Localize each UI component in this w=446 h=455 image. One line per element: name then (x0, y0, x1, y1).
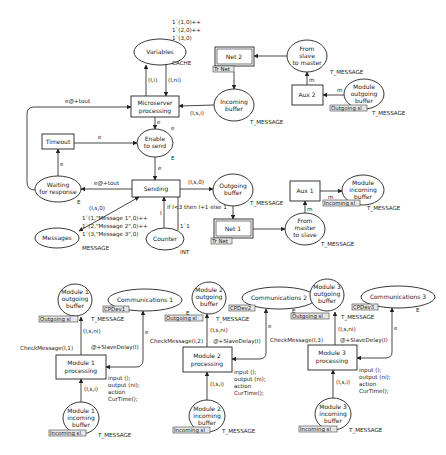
transition-label: Aux 1 (296, 187, 313, 194)
transition-label: Microserver (137, 99, 173, 106)
arc-label: 1`1 (180, 223, 190, 229)
colorset-label: E (77, 199, 81, 205)
place-outgoing-buffer[interactable]: Outgoing buffer (213, 174, 253, 206)
transition-label: Module 3 (318, 349, 346, 356)
place-label: buffer (225, 105, 243, 112)
colorset-label: MESSAGE (82, 245, 110, 251)
place-label: to send (144, 142, 167, 149)
arc-label: e (157, 119, 161, 125)
arc-label: e (268, 323, 272, 329)
transition-label: processing (65, 367, 98, 375)
place-label: Module 1 (61, 288, 89, 295)
place-label: Module 3 (313, 283, 341, 290)
place-module-2-outgoing-buffer[interactable]: Module 2 outgoing buffer (192, 282, 226, 314)
transition-microserver-processing[interactable]: Microserver processing (131, 96, 179, 117)
place-label: to master (292, 59, 322, 66)
colorset-label: T_MESSAGE (329, 69, 364, 76)
arc-label: (I,s,ni) (338, 326, 356, 332)
arc-label: e (394, 325, 398, 331)
subst-tag: Tr Net (213, 66, 234, 72)
code-line: input (); (359, 367, 382, 374)
arc (179, 105, 214, 106)
initial-marking: 1`(2,0)++ (172, 27, 201, 33)
arc-label: (I,s,ni) (83, 328, 101, 334)
place-incoming-buffer[interactable]: Incoming buffer (214, 89, 254, 121)
code-line: action (108, 389, 126, 395)
place-module-3-outgoing-buffer[interactable]: Module 3 outgoing buffer (310, 279, 344, 311)
initial-marking: 1`(2,"Message 2",0)++ (82, 223, 148, 230)
transition-net-1[interactable]: Net 1 (214, 219, 253, 238)
colorset-label: T_MESSAGE (221, 428, 256, 435)
place-waiting-for-response[interactable]: Waiting for response (35, 176, 81, 202)
colorset-label: T_MESSAGE (249, 200, 284, 207)
tag-label: Outgoing sl (40, 316, 71, 323)
arc-label: (I,s,ni) (210, 327, 228, 333)
arc-label: m (307, 206, 312, 212)
colorset-label: E (171, 155, 175, 161)
place-label: From (300, 45, 315, 52)
place-messages[interactable]: Messages (35, 228, 79, 248)
port-tag: Outgoing sl (291, 313, 329, 320)
place-label: buffer (66, 302, 84, 309)
transition-sending[interactable]: Sending (132, 180, 180, 197)
place-from-slave-to-master[interactable]: From slave to master (287, 40, 327, 72)
place-label: Messages (42, 234, 71, 242)
place-enable-to-send[interactable]: Enable to send (137, 129, 173, 157)
initial-marking: 1`(1,"Message 1",0)++ (82, 215, 148, 222)
port-tag: Outgoing sl (39, 316, 78, 323)
port-tag: Outgoing sl (330, 105, 367, 112)
place-label: buffer (354, 193, 372, 200)
place-counter[interactable]: Counter (146, 228, 184, 250)
code-line: CurTime(); (108, 396, 138, 402)
tag-label: Tr Net (213, 66, 230, 72)
transition-label: Sending (144, 185, 169, 193)
transition-net-2[interactable]: Net 2 (215, 47, 254, 66)
port-tag: CPDev3 (352, 304, 378, 310)
transition-label: Module 1 (67, 359, 95, 366)
place-label: Module 2 (195, 286, 223, 293)
transition-module-3-processing[interactable]: Module 3 processing (308, 345, 357, 370)
place-label: Module (353, 83, 375, 90)
transition-aux-1[interactable]: Aux 1 (290, 181, 320, 201)
arc-label: (I,i) (148, 77, 157, 83)
colorset-label: T_MESSAGE (371, 110, 406, 117)
place-label: Enable (145, 135, 166, 142)
code-line: CurTime(); (234, 390, 264, 396)
tag-label: Outgoing sl (292, 313, 323, 320)
transition-module-1-processing[interactable]: Module 1 processing (56, 355, 106, 379)
module-1: Module 1 outgoing buffer Outgoing sl T_M… (20, 284, 190, 439)
guard-label: CheckMessage(I,3) (270, 337, 323, 344)
delay-label: @+SlaveDelay(I) (91, 344, 139, 351)
place-label: buffer (318, 297, 336, 304)
token-label: e (171, 125, 175, 131)
place-label: Module 1 (67, 407, 95, 414)
tag-label: Incoming sl (324, 200, 355, 207)
place-from-master-to-slave[interactable]: From master to slave (285, 213, 325, 245)
colorset-label: T_MESSAGE (90, 316, 125, 323)
petri-net-diagram: Variables 1`(1,0)++ 1`(2,0)++ 1`(3,0) CA… (0, 0, 446, 455)
arc-label: (I,s,0) (89, 205, 105, 211)
place-label: From (298, 217, 313, 224)
transition-timeout[interactable]: Timeout (42, 134, 74, 149)
code-line: output (ni); (108, 382, 140, 389)
colorset-label: T_MESSAGE (366, 205, 401, 212)
subst-tag: Tr Net (211, 238, 232, 244)
port-tag: Incoming sl (49, 430, 86, 437)
code-line: input (); (108, 375, 131, 382)
place-module-1-outgoing-buffer[interactable]: Module 1 outgoing buffer (58, 284, 92, 316)
place-label: Communications 3 (370, 293, 426, 300)
place-label: buffer (324, 417, 342, 424)
delay-label: @+SlaveDelay(I) (340, 337, 388, 344)
arc-label: e@+tout (94, 180, 120, 186)
arc-label: e (60, 161, 64, 167)
tag-label: Tr Net (211, 238, 228, 244)
transition-label: Module 2 (193, 352, 221, 359)
colorset-label: CACHE (172, 60, 192, 66)
colorset-label: E (416, 307, 420, 313)
transition-aux-2[interactable]: Aux 2 (292, 85, 323, 105)
arc-label: (I,s,0) (188, 179, 204, 185)
guard-label: CheckMessage(I,2) (150, 338, 203, 345)
arc-label: m (337, 87, 342, 93)
transition-module-2-processing[interactable]: Module 2 processing (183, 347, 232, 372)
arc-label: m (328, 194, 333, 200)
